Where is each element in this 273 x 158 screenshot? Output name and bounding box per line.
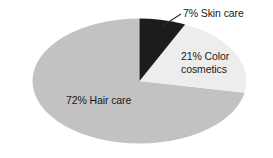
slice-label-skin-care: 7% Skin care bbox=[183, 7, 244, 20]
pie-chart: 7% Skin care 21% Color cosmetics 72% Hai… bbox=[0, 0, 273, 158]
slice-label-color-cosmetics: 21% Color cosmetics bbox=[181, 50, 255, 75]
slice-label-color-cosmetics-line2: cosmetics bbox=[181, 63, 255, 76]
pie-chart-canvas bbox=[0, 0, 273, 158]
slice-label-color-cosmetics-line1: 21% Color bbox=[181, 50, 229, 62]
slice-label-hair-care: 72% Hair care bbox=[66, 94, 131, 107]
